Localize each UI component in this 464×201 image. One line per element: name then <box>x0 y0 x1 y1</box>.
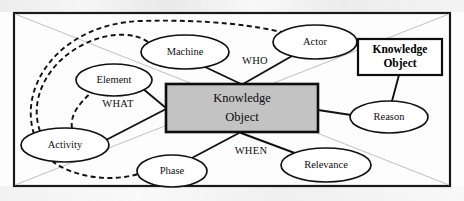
center-box-label-line1: Knowledge <box>213 91 271 105</box>
node-machine[interactable]: Machine <box>141 35 229 69</box>
knowledge-object-box[interactable]: Knowledge Object <box>358 39 442 75</box>
label-who: WHO <box>242 55 268 66</box>
label-when: WHEN <box>235 145 268 156</box>
knowledge-object-box-label-line1: Knowledge <box>373 43 428 56</box>
node-element[interactable]: Element <box>76 64 152 96</box>
knowledge-object-box-label-line2: Object <box>383 57 416 70</box>
node-phase[interactable]: Phase <box>137 155 207 187</box>
node-relevance[interactable]: Relevance <box>281 148 371 182</box>
center-box-label-line2: Object <box>225 110 259 124</box>
node-relevance-label: Relevance <box>304 159 348 170</box>
center-knowledge-object-box[interactable]: Knowledge Object <box>166 84 318 132</box>
node-actor[interactable]: Actor <box>273 25 357 59</box>
node-phase-label: Phase <box>160 165 185 176</box>
connector-activity-to-center <box>106 109 166 140</box>
label-what: WHAT <box>102 98 134 109</box>
node-element-label: Element <box>97 74 132 85</box>
dashed-link-activity-to-phase <box>52 161 138 178</box>
dashed-link-activity-to-element <box>72 92 92 128</box>
node-actor-label: Actor <box>303 36 327 47</box>
connector-element-to-center <box>142 88 166 108</box>
node-reason[interactable]: Reason <box>350 101 428 133</box>
diagram-svg: Knowledge Object Knowledge Object Machin… <box>0 0 464 201</box>
connector-machine-to-center <box>203 66 241 84</box>
node-activity-label: Activity <box>48 139 83 150</box>
connector-reason-to-center <box>318 110 351 115</box>
diagram-canvas: Knowledge Object Knowledge Object Machin… <box>0 0 464 201</box>
node-machine-label: Machine <box>167 46 204 57</box>
node-activity[interactable]: Activity <box>21 128 109 162</box>
node-reason-label: Reason <box>374 111 406 122</box>
connector-phase-to-center <box>190 133 239 159</box>
connector-reason-to-ko-box <box>392 75 399 101</box>
